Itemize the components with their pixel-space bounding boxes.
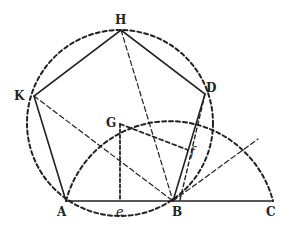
label-b: B [172,205,182,219]
dashed-line-g-f [120,124,188,150]
label-d: D [206,81,216,95]
label-c: C [266,205,276,219]
label-k: K [14,89,25,103]
construction-arc [66,121,273,201]
label-h: H [115,13,126,27]
dashed-line-h-b [121,30,173,201]
label-e: e [116,204,124,219]
label-f: f [189,144,197,159]
label-g: G [106,116,116,130]
pentagon-diagram: H K D G f A e B C [0,0,306,248]
dashed-line-k-b [34,96,173,201]
label-a: A [56,205,67,219]
